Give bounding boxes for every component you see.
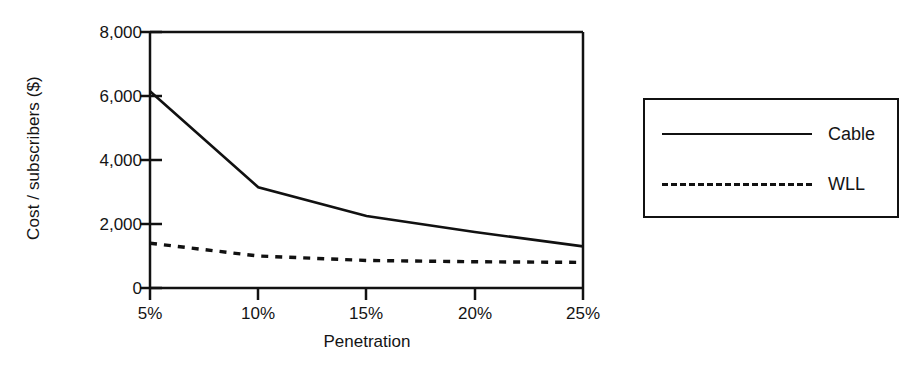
- x-tick-label-25: 25%: [538, 305, 628, 322]
- legend-item-cable: Cable: [645, 122, 897, 146]
- chart-figure: Cost / subscribers ($) 8,000 6,000 4,000…: [0, 0, 922, 382]
- x-tick-label-15: 15%: [321, 305, 411, 322]
- chart-legend: Cable WLL: [643, 98, 899, 218]
- x-tick-label-5: 5%: [105, 305, 195, 322]
- legend-item-wll: WLL: [645, 172, 897, 196]
- x-axis-title: Penetration: [150, 332, 584, 352]
- legend-swatch-solid-icon: [662, 127, 812, 141]
- legend-label-cable: Cable: [828, 124, 875, 145]
- x-tick-label-10: 10%: [213, 305, 303, 322]
- legend-label-wll: WLL: [828, 174, 865, 195]
- legend-swatch-dotted-icon: [662, 177, 812, 191]
- x-tick-label-20: 20%: [430, 305, 520, 322]
